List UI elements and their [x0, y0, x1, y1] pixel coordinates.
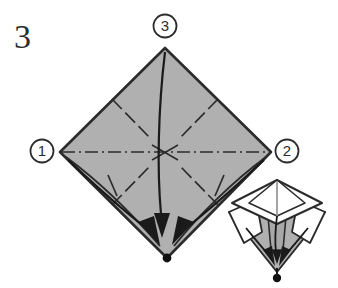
origami-diagram-svg: 3 — [0, 0, 338, 288]
callout-2[interactable]: 2 — [276, 140, 299, 163]
callout-3[interactable]: 3 — [154, 15, 177, 38]
callout-3-label: 3 — [161, 17, 169, 34]
callout-1[interactable]: 1 — [31, 140, 54, 163]
diagram-canvas: 3 — [0, 0, 338, 288]
bottom-apex-dot — [163, 254, 172, 263]
step-number: 3 — [14, 18, 31, 55]
callout-1-label: 1 — [38, 142, 46, 159]
inset-preview-figure — [229, 180, 325, 282]
callout-2-label: 2 — [283, 142, 291, 159]
